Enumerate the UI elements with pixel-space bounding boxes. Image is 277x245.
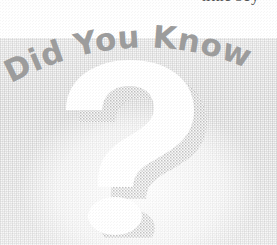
body-text-clip: little boy	[0, 0, 277, 9]
did-you-know-heading: Did You Know	[0, 18, 277, 93]
body-text-cutoff-line: little boy	[202, 0, 259, 4]
page-canvas: little boy	[0, 0, 277, 245]
did-you-know-heading-text: Did You Know	[0, 18, 257, 89]
